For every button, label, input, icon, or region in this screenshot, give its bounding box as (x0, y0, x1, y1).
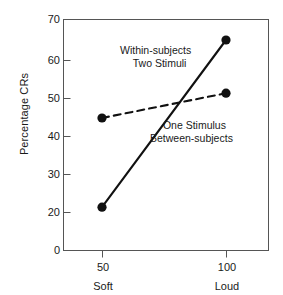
x-tick-name-soft: Soft (73, 281, 133, 292)
data-point-between-soft (97, 113, 106, 122)
x-tick-value-50: 50 (78, 262, 128, 273)
series-line-between-subjects (102, 93, 226, 118)
data-point-within-soft (97, 203, 106, 212)
y-axis-ticks (64, 20, 71, 213)
x-axis-ticks (103, 251, 227, 258)
data-point-within-loud (221, 35, 230, 44)
annotation-between-line1: One Stimulus (156, 119, 233, 132)
annotation-within-line2: Two Stimuli (128, 57, 191, 70)
data-point-between-loud (221, 89, 230, 98)
annotation-within-line1: Within-subjects (120, 44, 191, 57)
annotation-between-subjects: One Stimulus Between-subjects (150, 119, 233, 145)
annotation-between-line2: Between-subjects (150, 132, 233, 145)
annotation-within-subjects: Within-subjects Two Stimuli (120, 44, 191, 70)
x-tick-value-100: 100 (202, 262, 252, 273)
x-tick-name-loud: Loud (197, 281, 257, 292)
chart-figure: Percentage CRs 70 60 50 40 30 20 0 Withi… (0, 0, 283, 295)
